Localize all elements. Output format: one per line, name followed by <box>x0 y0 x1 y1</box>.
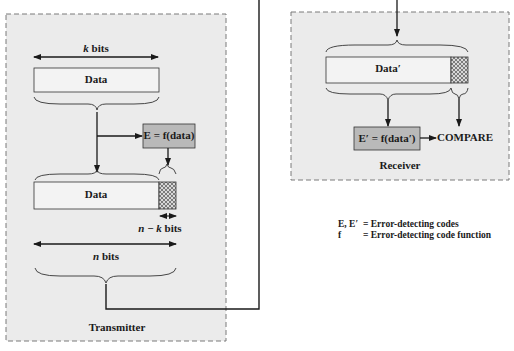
received-data-label: Data′ <box>375 62 401 74</box>
function-box-label: E = f(data) <box>144 129 195 141</box>
receiver-function-label: E′ = f(data′) <box>358 132 415 144</box>
codeword-check-bits <box>159 182 176 209</box>
compare-label: COMPARE <box>437 131 493 143</box>
legend: E, E′= Error-detecting codes f= Error-de… <box>338 219 491 241</box>
transmitter-panel <box>6 14 226 341</box>
data-label: Data <box>85 73 108 85</box>
receiver-panel <box>291 0 509 180</box>
legend-item: f= Error-detecting code function <box>338 230 491 241</box>
n-minus-k-label: n − k bits <box>138 222 181 234</box>
transmitter-title: Transmitter <box>89 321 146 333</box>
error-detection-diagram <box>0 0 514 351</box>
k-bits-label: k bits <box>83 42 108 54</box>
received-check-bits <box>451 57 468 83</box>
receiver-title: Receiver <box>380 159 421 171</box>
n-bits-label: n bits <box>93 250 119 262</box>
legend-item: E, E′= Error-detecting codes <box>338 219 491 230</box>
codeword-data-label: Data <box>85 188 108 200</box>
